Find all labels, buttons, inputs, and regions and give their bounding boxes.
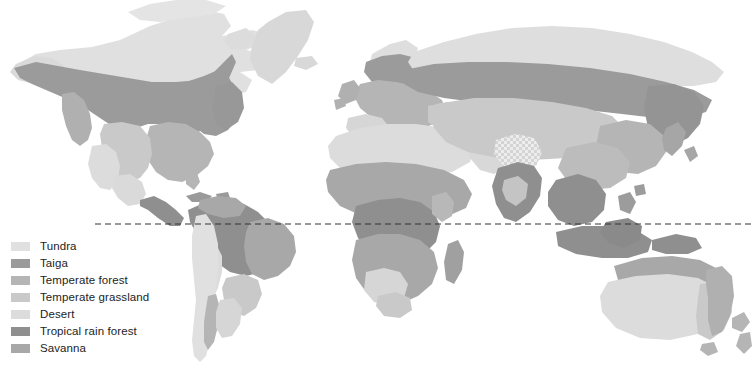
legend-item-taiga[interactable]: Taiga [11,255,149,272]
legend-item-desert[interactable]: Desert [11,306,149,323]
legend-swatch-tundra [11,242,30,251]
biome-savanna-cerrado [244,218,296,280]
region-south-america [188,196,296,362]
legend-label-temperate-forest: Temperate forest [40,275,128,286]
legend-label-tropical-rain-forest: Tropical rain forest [40,326,137,337]
legend-label-tundra: Tundra [40,241,77,252]
island-tasmania [700,342,718,356]
legend-label-temperate-grassland: Temperate grassland [40,292,149,303]
island-british-isles [334,80,360,110]
legend-swatch-desert [11,310,30,319]
figure-caption [5,366,435,375]
island-new-guinea [652,234,702,254]
island-madagascar [444,240,464,284]
region-asia [404,26,724,258]
island-philippines [618,184,646,214]
legend-label-desert: Desert [40,309,74,320]
legend-swatch-tropical-rain-forest [11,327,30,336]
legend-swatch-taiga [11,259,30,268]
legend-item-temperate-forest[interactable]: Temperate forest [11,272,149,289]
region-north-america [10,0,318,226]
legend-item-tundra[interactable]: Tundra [11,238,149,255]
island-new-zealand [732,312,752,354]
biome-tundra-greenland [250,10,314,84]
legend-label-savanna: Savanna [40,343,86,354]
island-iceland [294,56,318,70]
biome-tropical-rain-forest-central-america [140,196,184,226]
biome-map-figure: Tundra Taiga Temperate forest Temperate … [0,0,752,375]
legend-label-taiga: Taiga [40,258,68,269]
legend-item-temperate-grassland[interactable]: Temperate grassland [11,289,149,306]
legend-swatch-savanna [11,344,30,353]
biome-legend: Tundra Taiga Temperate forest Temperate … [11,238,149,357]
legend-swatch-temperate-grassland [11,293,30,302]
legend-item-tropical-rain-forest[interactable]: Tropical rain forest [11,323,149,340]
biome-taiga-labrador [212,82,244,130]
biome-desert-patagonia [216,298,242,338]
biome-temperate-forest-eastern-australia [706,266,734,336]
region-australia [600,256,752,356]
legend-swatch-temperate-forest [11,276,30,285]
legend-item-savanna[interactable]: Savanna [11,340,149,357]
